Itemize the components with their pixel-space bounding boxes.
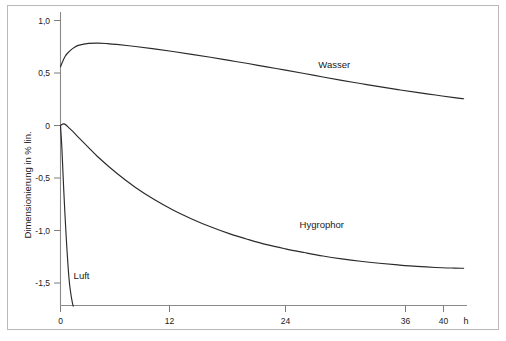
line-chart: 1,0 0,5 0 -0,5 -1,0 -1,5 0 12 24 36 40 h… [0, 0, 506, 341]
x-axis-unit-label: h [463, 316, 468, 326]
series-annotations: Wasser Hygrophor Luft [74, 59, 351, 281]
series-line-luft [61, 126, 74, 307]
y-tick-label: 0,5 [38, 68, 50, 78]
series-label-hygrophor: Hygrophor [300, 219, 344, 230]
y-tick-label: 1,0 [38, 16, 50, 26]
y-tick-label: -0,5 [35, 173, 50, 183]
y-tick-label: 0 [45, 121, 50, 131]
series-label-wasser: Wasser [318, 59, 350, 70]
series-label-luft: Luft [74, 270, 90, 281]
x-axis-ticks: 0 12 24 36 40 [58, 306, 448, 327]
y-tick-label: -1,5 [35, 278, 50, 288]
series-line-hygrophor [61, 124, 464, 268]
series-group [61, 43, 464, 306]
x-tick-label: 12 [165, 316, 175, 326]
x-tick-label: 40 [439, 316, 449, 326]
y-tick-label: -1,0 [35, 226, 50, 236]
x-tick-label: 24 [281, 316, 291, 326]
series-line-wasser [61, 43, 464, 99]
y-axis-title: Dimensionierung in % lin. [22, 131, 33, 238]
y-axis-ticks: 1,0 0,5 0 -0,5 -1,0 -1,5 [35, 16, 60, 289]
x-tick-label: 0 [58, 316, 63, 326]
chart-figure: 1,0 0,5 0 -0,5 -1,0 -1,5 0 12 24 36 40 h… [0, 0, 506, 341]
x-tick-label: 36 [401, 316, 411, 326]
axes-group [61, 12, 468, 306]
